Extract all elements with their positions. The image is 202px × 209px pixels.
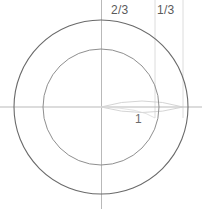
figure-canvas: 2/3 1/3 1: [0, 0, 202, 209]
label-two-thirds: 2/3: [111, 3, 129, 17]
label-one-third: 1/3: [157, 3, 175, 17]
label-one: 1: [135, 112, 142, 126]
diagram-svg: [0, 0, 202, 209]
